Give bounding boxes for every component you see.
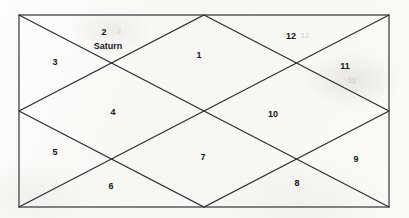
chart-page: 1 2 3 4 5 6 7 8 9 10 11 12 Saturn 2 12 1… [0, 0, 409, 218]
house-number-2: 2 [101, 27, 106, 37]
house-number-8: 8 [294, 178, 299, 188]
house-number-9: 9 [353, 154, 358, 164]
house-number-10: 10 [268, 109, 278, 119]
planet-saturn-label: Saturn [94, 41, 123, 51]
house-number-12: 12 [286, 31, 296, 41]
vedic-chart-diagram [0, 0, 409, 218]
house-number-6: 6 [108, 181, 113, 191]
house-number-7: 7 [200, 152, 205, 162]
house-number-3: 3 [52, 57, 57, 67]
house-number-1: 1 [196, 50, 201, 60]
house-number-11: 11 [340, 61, 350, 71]
house-number-5: 5 [52, 147, 57, 157]
house-number-4: 4 [110, 107, 115, 117]
